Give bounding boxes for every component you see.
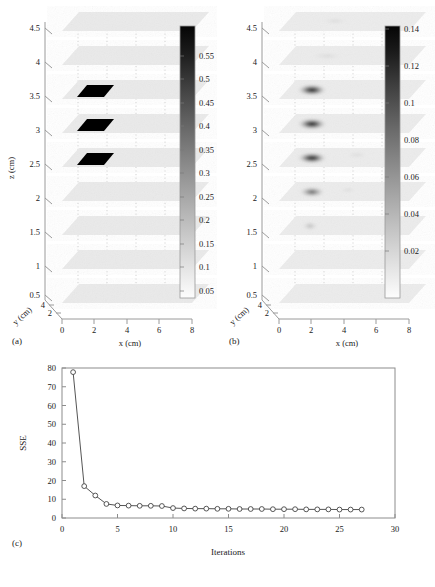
panel-c-svg: 051015202530 01020304050607080 Iteration… bbox=[0, 350, 435, 587]
chart-data-point bbox=[182, 506, 187, 511]
panel-b-colorbar bbox=[385, 26, 400, 298]
panel-a-cbar-tick-0.5: 0.5 bbox=[199, 74, 210, 84]
chart-data-point bbox=[193, 506, 198, 511]
panel-b-anomaly-z3 bbox=[297, 118, 327, 130]
chart-x-tick-label: 30 bbox=[391, 524, 400, 534]
panel-b-cbar-tick-0.06: 0.06 bbox=[404, 172, 419, 182]
panel-a-y-axis-label: y (cm) bbox=[10, 304, 33, 327]
panel-b-x-tick-8: 8 bbox=[407, 325, 411, 335]
panel-b-x-tick-0: 0 bbox=[277, 325, 281, 335]
panel-a-z-tick-4.5: 4.5 bbox=[29, 23, 40, 33]
panel-c-tag: (c) bbox=[12, 538, 22, 548]
chart-data-point bbox=[348, 507, 353, 512]
panel-a-z-tick-1.5: 1.5 bbox=[29, 227, 40, 237]
panel-b-z-tick-2: 2 bbox=[253, 193, 257, 203]
chart-y-tick-label: 70 bbox=[48, 382, 57, 392]
panel-b-cbar-tick-0.08: 0.08 bbox=[404, 135, 419, 145]
panel-b-x-ticks bbox=[279, 319, 409, 324]
chart-y-tick-label: 60 bbox=[48, 401, 57, 411]
chart-data-point bbox=[115, 503, 120, 508]
panel-b-y-axis-label: y (cm) bbox=[227, 304, 250, 327]
panel-b-z-tick-4: 4 bbox=[253, 57, 258, 67]
panel-a-x-tick-0: 0 bbox=[60, 325, 64, 335]
chart-x-tick-label: 15 bbox=[224, 524, 233, 534]
chart-y-axis-label: SSE bbox=[18, 435, 28, 451]
panel-a-z-tick-3: 3 bbox=[36, 125, 40, 135]
chart-data-point bbox=[248, 507, 253, 512]
panel-a-z-tick-2: 2 bbox=[36, 193, 40, 203]
panel-b-anomaly-z2 bbox=[299, 187, 325, 197]
chart-x-tick-label: 20 bbox=[280, 524, 289, 534]
panel-a-cbar-tick-0.35: 0.35 bbox=[199, 145, 214, 155]
chart-data-point bbox=[293, 507, 298, 512]
panel-a-z-tick-0.5: 0.5 bbox=[29, 290, 40, 300]
panel-a-z-ticks bbox=[45, 28, 52, 301]
chart-y-tick-label: 0 bbox=[52, 513, 56, 523]
panel-b-z-tick-3: 3 bbox=[253, 125, 257, 135]
panel-b-anomaly-z4 bbox=[310, 53, 344, 59]
panel-a-z-tick-2.5: 2.5 bbox=[29, 159, 40, 169]
chart-data-point bbox=[104, 502, 109, 507]
panel-b-slice-2 bbox=[279, 182, 426, 201]
panel-b-z-tick-1: 1 bbox=[253, 261, 257, 271]
panel-a-cbar-tick-0.25: 0.25 bbox=[199, 192, 214, 202]
chart-x-axis-label: Iterations bbox=[211, 547, 245, 557]
panel-a-y-tick-4: 4 bbox=[41, 300, 46, 310]
panel-b-x-axis-label: x (cm) bbox=[336, 338, 359, 348]
chart-y-ticks bbox=[62, 368, 66, 518]
chart-data-point bbox=[337, 507, 342, 512]
chart-data-point bbox=[259, 507, 264, 512]
panel-b-z-tick-0.5: 0.5 bbox=[246, 290, 257, 300]
panel-b-z-tick-1.5: 1.5 bbox=[246, 227, 257, 237]
panel-a-cbar-tick-0.1: 0.1 bbox=[199, 262, 210, 272]
panel-b-tag: (b) bbox=[229, 336, 240, 346]
chart-x-tick-label: 10 bbox=[169, 524, 178, 534]
panel-a-cbar-tick-0.55: 0.55 bbox=[199, 51, 214, 61]
panel-b-anomaly-z4.5 bbox=[321, 18, 349, 23]
chart-data-point bbox=[326, 507, 331, 512]
panel-a-cbar-tick-0.15: 0.15 bbox=[199, 239, 214, 249]
chart-y-tick-label: 80 bbox=[48, 363, 57, 373]
chart-data-point bbox=[271, 507, 276, 512]
chart-plot-frame bbox=[62, 368, 395, 518]
panel-b-anomaly-z1.5 bbox=[302, 222, 318, 230]
panel-a-true-model: 4.5 4 3.5 3 2.5 2 1.5 1 0.5 z (cm) 0 2 4… bbox=[0, 0, 217, 350]
chart-y-tick-labels: 01020304050607080 bbox=[48, 363, 57, 523]
chart-x-tick-label: 25 bbox=[335, 524, 344, 534]
chart-data-point bbox=[215, 506, 220, 511]
chart-data-point bbox=[315, 507, 320, 512]
panel-a-z-tick-1: 1 bbox=[36, 261, 40, 271]
chart-data-point bbox=[204, 506, 209, 511]
panel-b-cbar-tick-0.1: 0.1 bbox=[404, 98, 415, 108]
panel-a-x-axis-label: x (cm) bbox=[119, 338, 142, 348]
panel-b-anomaly-z3.5 bbox=[297, 84, 327, 96]
panel-b-svg: 4.5 4 3.5 3 2.5 2 1.5 1 0.5 0 2 4 6 8 x … bbox=[217, 0, 435, 350]
chart-y-tick-label: 50 bbox=[48, 419, 57, 429]
chart-data-point bbox=[160, 504, 165, 509]
panel-a-tag: (a) bbox=[12, 336, 22, 346]
panel-a-x-tick-4: 4 bbox=[125, 325, 130, 335]
panel-a-x-ticks bbox=[62, 319, 192, 324]
panel-b-z-tick-4.5: 4.5 bbox=[246, 23, 257, 33]
panel-b-noise-z2 bbox=[339, 188, 357, 193]
chart-series-line bbox=[73, 372, 362, 509]
panel-a-cbar-tick-0.4: 0.4 bbox=[199, 121, 210, 131]
panel-b-cbar-tick-0.04: 0.04 bbox=[404, 209, 420, 219]
chart-data-point bbox=[237, 507, 242, 512]
panel-a-z-axis-label: z (cm) bbox=[6, 157, 16, 179]
chart-data-point bbox=[359, 507, 364, 512]
panel-a-svg: 4.5 4 3.5 3 2.5 2 1.5 1 0.5 z (cm) 0 2 4… bbox=[0, 0, 217, 350]
panel-b-noise-z2.5 bbox=[345, 152, 369, 157]
panel-b-slice-2.5 bbox=[279, 148, 426, 167]
panel-b-z-ticks bbox=[262, 28, 269, 301]
panel-a-z-tick-3.5: 3.5 bbox=[29, 91, 40, 101]
chart-y-tick-label: 40 bbox=[48, 438, 57, 448]
panel-b-z-tick-3.5: 3.5 bbox=[246, 91, 257, 101]
chart-series-markers bbox=[71, 370, 364, 512]
panel-a-x-tick-6: 6 bbox=[157, 325, 161, 335]
panel-a-cbar-tick-0.3: 0.3 bbox=[199, 168, 210, 178]
panel-a-x-tick-2: 2 bbox=[92, 325, 96, 335]
panel-b-z-tick-2.5: 2.5 bbox=[246, 159, 257, 169]
panel-b-y-tick-2: 2 bbox=[265, 308, 269, 318]
chart-x-tick-label: 5 bbox=[115, 524, 119, 534]
